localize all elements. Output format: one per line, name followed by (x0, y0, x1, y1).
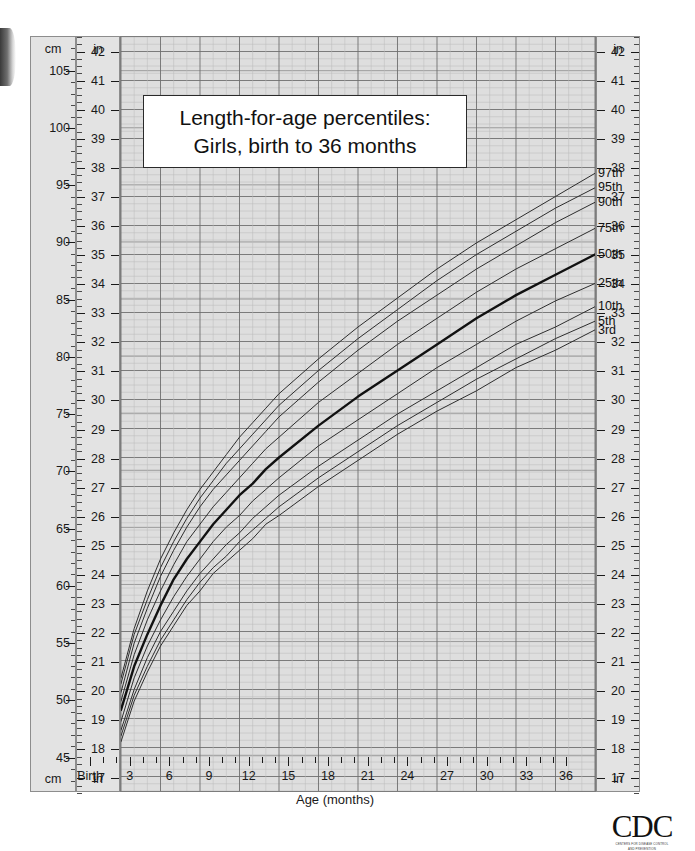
inch-minor-tick (634, 713, 639, 714)
cm-minor-tick (71, 368, 75, 369)
inch-minor-tick (77, 764, 82, 765)
x-tick-label-3: 3 (126, 769, 133, 783)
inch-minor-tick (634, 393, 639, 394)
inch-minor-tick (77, 473, 82, 474)
cm-tickmark-75 (66, 414, 75, 415)
inch-minor-tick (634, 669, 639, 670)
inch-tickmark (77, 284, 85, 285)
inch-minor-tick (634, 728, 639, 729)
inch-tickmark (111, 313, 119, 314)
inch-minor-tick (77, 619, 82, 620)
inch-minor-tick (77, 713, 82, 714)
inch-minor-tick (77, 204, 82, 205)
inch-minor-tick (77, 539, 82, 540)
inch-tickmark (597, 110, 605, 111)
inch-minor-tick (634, 37, 639, 38)
inch-tickmark (597, 662, 605, 663)
cm-minor-tick (71, 769, 75, 770)
inch-minor-tick (77, 480, 82, 481)
inch-minor-tick (77, 655, 82, 656)
inch-tickmark (77, 197, 85, 198)
inch-minor-tick (634, 204, 639, 205)
inch-minor-tick (77, 408, 82, 409)
inch-minor-tick (77, 364, 82, 365)
cm-minor-tick (71, 735, 75, 736)
inch-tickmark (111, 691, 119, 692)
percentile-label-25th: 25th (598, 277, 622, 290)
inch-minor-tick (77, 277, 82, 278)
inch-minor-tick (634, 582, 639, 583)
inch-minor-tick (77, 560, 82, 561)
cm-minor-tick (71, 483, 75, 484)
x-tickmark (526, 757, 527, 766)
inch-minor-tick (634, 771, 639, 772)
inch-minor-tick (634, 190, 639, 191)
inch-minor-tick (77, 589, 82, 590)
inch-minor-tick (634, 102, 639, 103)
inch-tickmark (77, 546, 85, 547)
inch-tickmark (111, 546, 119, 547)
inch-minor-tick (634, 451, 639, 452)
inch-minor-tick (634, 640, 639, 641)
inch-minor-tick (634, 473, 639, 474)
cm-minor-tick (71, 597, 75, 598)
x-tick-label-18: 18 (321, 769, 335, 783)
x-tickmark (288, 757, 289, 766)
cdc-logo: CDC CENTERS FOR DISEASE CONTROL AND PREV… (596, 812, 688, 850)
inch-minor-tick (77, 669, 82, 670)
inch-minor-tick (634, 786, 639, 787)
inch-tickmark (631, 749, 639, 750)
inch-minor-tick (634, 619, 639, 620)
x-tickmark (566, 757, 567, 766)
inch-tickmark (111, 633, 119, 634)
cm-tickmark-105 (66, 71, 75, 72)
x-tickmark (196, 757, 197, 763)
inch-minor-tick (77, 677, 82, 678)
inch-minor-tick (77, 735, 82, 736)
inch-minor-tick (77, 706, 82, 707)
cm-minor-tick (71, 494, 75, 495)
inch-tickmark (77, 459, 85, 460)
percentile-label-3rd: 3rd (598, 324, 616, 337)
inch-tickmark (111, 284, 119, 285)
cm-header-top: cm (31, 43, 75, 56)
cm-minor-tick (71, 632, 75, 633)
inch-minor-tick (77, 495, 82, 496)
inch-minor-tick (634, 495, 639, 496)
inch-minor-tick (77, 321, 82, 322)
inch-minor-tick (77, 291, 82, 292)
x-tickmark (183, 757, 184, 763)
cm-minor-tick (71, 403, 75, 404)
cm-tickmark-90 (66, 242, 75, 243)
inch-tickmark (597, 342, 605, 343)
x-tickmark (235, 757, 236, 763)
percentile-label-90th: 90th (598, 196, 622, 209)
x-tick-label-33: 33 (519, 769, 533, 783)
cm-minor-tick (71, 220, 75, 221)
inch-minor-tick (77, 73, 82, 74)
inch-tickmark (597, 604, 605, 605)
inch-minor-tick (634, 262, 639, 263)
inch-minor-tick (634, 757, 639, 758)
cm-minor-tick (71, 162, 75, 163)
inch-tickmark (631, 342, 639, 343)
inch-minor-tick (634, 597, 639, 598)
inch-tickmark (77, 430, 85, 431)
inch-minor-tick (77, 233, 82, 234)
inch-minor-tick (77, 786, 82, 787)
x-tick-label-9: 9 (206, 769, 213, 783)
x-tick-label-24: 24 (400, 769, 414, 783)
inch-tickmark (77, 371, 85, 372)
cm-minor-tick (71, 197, 75, 198)
inch-minor-tick (634, 510, 639, 511)
x-tickmark (394, 757, 395, 763)
curve-3rd (121, 330, 595, 742)
inch-tickmark (597, 575, 605, 576)
inch-tickmark (77, 633, 85, 634)
inch-minor-tick (634, 321, 639, 322)
inch-minor-tick (77, 728, 82, 729)
cm-tickmark-55 (66, 643, 75, 644)
inch-minor-tick (634, 350, 639, 351)
inch-minor-tick (77, 306, 82, 307)
inch-tickmark (111, 342, 119, 343)
